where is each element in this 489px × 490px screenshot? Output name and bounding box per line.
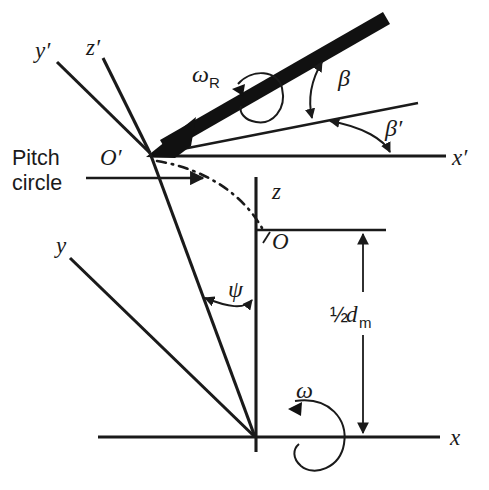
axis-z-prime-line [103, 58, 150, 153]
label-origin: O [272, 229, 289, 254]
label-pitch-line-2: circle [12, 171, 62, 195]
angle-beta-arc [310, 62, 322, 118]
label-x-prime: x′ [451, 145, 468, 170]
label-z: z [271, 179, 281, 204]
angle-beta-prime-arc [330, 121, 390, 152]
diagram-root: y′ z′ x′ y z x O′ O Pitch circle ω R ω β… [0, 0, 489, 490]
label-y-prime: y′ [33, 38, 51, 63]
origin-o-tick [263, 232, 270, 243]
technical-diagram-svg: y′ z′ x′ y z x O′ O Pitch circle ω R ω β… [0, 0, 489, 490]
label-beta-prime: β′ [384, 115, 403, 141]
omega-arrowhead [288, 402, 302, 416]
label-psi: ψ [228, 276, 244, 302]
label-y: y [54, 233, 67, 258]
label-beta: β [337, 65, 350, 91]
label-omega-r-group: ω R [192, 61, 220, 91]
axis-y-prime-line [57, 62, 150, 153]
label-half-dm-group: ½ d m [330, 302, 372, 331]
label-z-prime: z′ [85, 35, 101, 60]
label-x: x [449, 425, 461, 450]
label-omega: ω [296, 377, 313, 403]
label-omega-r-subscript: R [209, 74, 220, 91]
label-origin-prime: O′ [100, 145, 123, 170]
label-omega-r: ω [192, 61, 209, 87]
omega-r-arrowhead [232, 84, 245, 96]
label-dm-d: d [346, 302, 358, 327]
label-pitch-line-1: Pitch [12, 146, 60, 170]
label-dm-subscript: m [359, 314, 372, 331]
tool-axis-thick-arrow [146, 12, 390, 158]
